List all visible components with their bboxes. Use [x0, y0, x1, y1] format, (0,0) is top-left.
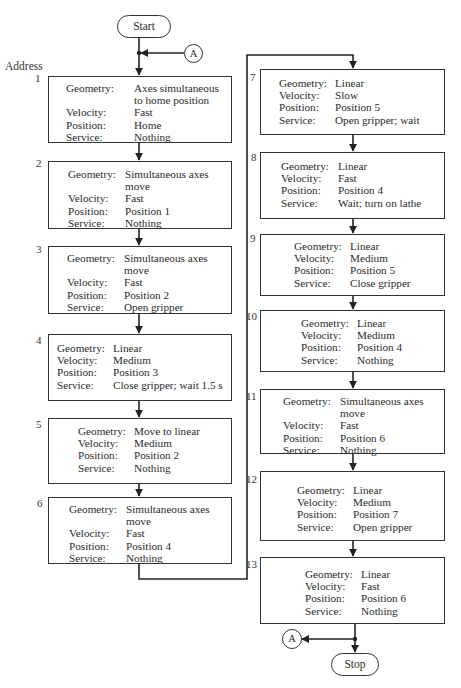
geometry-value: Simultaneous axes	[125, 168, 209, 180]
service-value: Wait; turn on lathe	[338, 197, 421, 209]
geometry-value: Linear	[350, 240, 379, 252]
service-label: Service:	[305, 605, 361, 617]
geometry-label: Geometry:	[69, 503, 126, 515]
position-value: Position 3	[113, 366, 158, 378]
service-label: Service:	[297, 521, 353, 533]
position-label: Position:	[67, 289, 124, 301]
geometry-value: Linear	[113, 342, 142, 354]
geometry-value-cont: move	[125, 180, 150, 192]
position-label: Position:	[279, 101, 335, 113]
velocity-label: Velocity:	[279, 89, 335, 101]
service-value: Close gripper; wait 1.5 s	[113, 379, 223, 391]
position-label: Position:	[68, 205, 125, 217]
address-number: 9	[250, 233, 256, 244]
address-number: 2	[36, 158, 42, 169]
step-box-10: Geometry:Linear Velocity:Medium Position…	[260, 310, 445, 372]
step-box-11: Geometry:Simultaneous axes move Velocity…	[260, 389, 445, 454]
geometry-label: Geometry:	[305, 568, 361, 580]
step-box-6: Geometry:Simultaneous axes move Velocity…	[48, 497, 232, 564]
velocity-value: Slow	[335, 89, 358, 101]
service-value: Nothing	[357, 354, 394, 366]
velocity-value: Fast	[361, 580, 380, 592]
service-value: Open gripper	[353, 521, 412, 533]
geometry-value-cont: move	[124, 264, 149, 276]
geometry-value: Linear	[361, 568, 390, 580]
velocity-value: Fast	[340, 419, 359, 431]
geometry-value: Axes simultaneous	[134, 82, 219, 94]
address-number: 1	[35, 73, 41, 84]
geometry-value-cont: to home position	[134, 94, 209, 106]
stop-terminal: Stop	[331, 653, 379, 676]
service-label: Service:	[69, 552, 126, 564]
velocity-value: Fast	[124, 276, 143, 288]
address-number: 4	[36, 335, 42, 346]
step-box-4: Geometry:Linear Velocity:Medium Position…	[48, 334, 232, 401]
position-value: Position 5	[350, 264, 395, 276]
position-value: Position 2	[134, 449, 179, 461]
service-label: Service:	[78, 462, 134, 474]
position-value: Position 6	[340, 432, 385, 444]
velocity-label: Velocity:	[67, 276, 124, 288]
step-box-5: Geometry:Move to linear Velocity:Medium …	[48, 418, 232, 484]
geometry-label: Geometry:	[68, 168, 125, 180]
position-label: Position:	[69, 540, 126, 552]
geometry-label: Geometry:	[281, 160, 338, 172]
geometry-value: Linear	[353, 484, 382, 496]
position-value: Position 7	[353, 508, 398, 520]
velocity-value: Medium	[353, 496, 391, 508]
step-box-13: Geometry:Linear Velocity:Fast Position:P…	[260, 557, 445, 624]
position-label: Position:	[57, 366, 113, 378]
connector-a-bottom: A	[282, 629, 302, 649]
address-number: 7	[250, 72, 256, 83]
address-number: 3	[36, 244, 42, 255]
geometry-value: Simultaneous axes	[126, 503, 210, 515]
address-number: 11	[246, 391, 257, 402]
robot-program-flowchart: Start A Address 1 Geometry:Axes simultan…	[0, 0, 461, 688]
position-value: Position 1	[125, 205, 170, 217]
velocity-label: Velocity:	[305, 580, 361, 592]
velocity-label: Velocity:	[281, 172, 338, 184]
geometry-value: Move to linear	[134, 425, 200, 437]
service-label: Service:	[294, 277, 350, 289]
service-label: Service:	[281, 197, 338, 209]
geometry-label: Geometry:	[294, 240, 350, 252]
address-number: 6	[37, 498, 43, 509]
service-value: Open gripper; wait	[335, 114, 420, 126]
geometry-label: Geometry:	[301, 317, 357, 329]
velocity-label: Velocity:	[283, 419, 340, 431]
position-label: Position:	[281, 184, 338, 196]
velocity-label: Velocity:	[69, 527, 126, 539]
position-label: Position:	[305, 592, 361, 604]
address-number: 12	[246, 474, 257, 485]
velocity-label: Velocity:	[301, 329, 357, 341]
address-number: 8	[251, 152, 257, 163]
velocity-value: Medium	[113, 354, 151, 366]
position-label: Position:	[301, 341, 357, 353]
service-value: Nothing	[340, 444, 377, 456]
address-header: Address	[5, 60, 43, 72]
service-value: Nothing	[134, 462, 171, 474]
position-value: Position 4	[338, 184, 383, 196]
step-box-9: Geometry:Linear Velocity:Medium Position…	[260, 234, 445, 296]
position-value: Position 4	[357, 341, 402, 353]
velocity-value: Medium	[134, 437, 172, 449]
service-label: Service:	[66, 131, 134, 143]
geometry-value: Linear	[357, 317, 386, 329]
geometry-value-cont: move	[126, 515, 151, 527]
geometry-value: Simultaneous axes	[124, 252, 208, 264]
service-label: Service:	[67, 301, 124, 313]
velocity-label: Velocity:	[66, 106, 134, 118]
geometry-label: Geometry:	[297, 484, 353, 496]
position-label: Position:	[283, 432, 340, 444]
velocity-label: Velocity:	[294, 252, 350, 264]
service-label: Service:	[279, 114, 335, 126]
address-number: 5	[36, 419, 42, 430]
velocity-value: Fast	[134, 106, 153, 118]
service-value: Nothing	[126, 552, 163, 564]
position-value: Position 5	[335, 101, 380, 113]
velocity-value: Medium	[350, 252, 388, 264]
service-value: Nothing	[125, 217, 162, 229]
geometry-value: Linear	[338, 160, 367, 172]
service-label: Service:	[68, 217, 125, 229]
position-label: Position:	[78, 449, 134, 461]
